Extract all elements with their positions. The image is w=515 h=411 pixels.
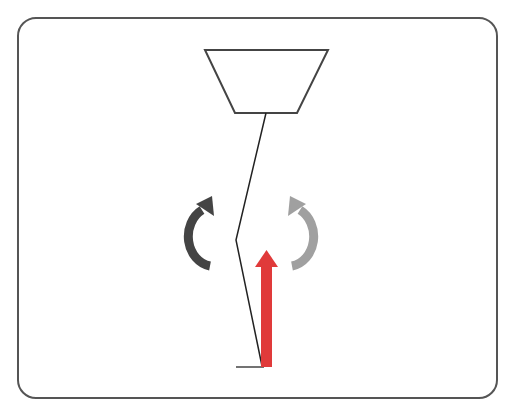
rotate-light-arrow-icon [288,196,314,266]
diagram-canvas [0,0,515,411]
trapezoid-shape [205,50,328,113]
rotate-dark-arrow-icon [188,196,214,266]
